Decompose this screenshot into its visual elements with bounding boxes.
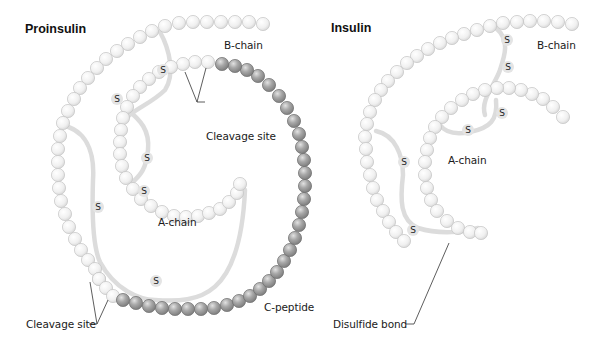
proinsulin-c-peptide-bead	[295, 140, 308, 153]
proinsulin-c-peptide-bead	[283, 243, 296, 256]
svg-text:S: S	[95, 202, 101, 212]
insulin-a-chain-bead	[514, 83, 527, 96]
proinsulin-a-chain-bead	[176, 57, 189, 70]
proinsulin-c-peptide-bead	[142, 299, 155, 312]
proinsulin-c-peptide-bead	[292, 218, 305, 231]
insulin-b-chain-bead	[433, 36, 446, 49]
insulin-a-chain-bead	[420, 143, 433, 156]
proinsulin-b-chain-bead	[172, 16, 185, 29]
proinsulin-c-peptide-label: C-peptide	[264, 301, 314, 313]
insulin-a-chain-bead	[455, 93, 468, 106]
cleavage-site-top-leader	[185, 68, 206, 102]
insulin-a-chain-bead	[420, 181, 433, 194]
proinsulin-a-chain-label: A-chain	[158, 216, 196, 228]
insulin-b-chain-bead	[565, 17, 578, 30]
insulin-processing-diagram: SSSSSSSSSSSS	[0, 0, 603, 351]
proinsulin-c-peptide-bead	[288, 231, 301, 244]
proinsulin-b-chain-bead	[242, 15, 255, 28]
proinsulin-c-peptide-bead	[228, 59, 241, 72]
proinsulin-c-peptide-bead	[116, 293, 129, 306]
insulin-a-chain-bead	[502, 81, 515, 94]
insulin-b-chain-bead	[363, 168, 376, 181]
proinsulin-c-peptide-bead	[207, 301, 220, 314]
insulin-a-chain-bead	[490, 81, 503, 94]
insulin-b-chain-bead	[360, 117, 373, 130]
proinsulin-b-chain-bead	[133, 30, 146, 43]
proinsulin-b-chain-bead	[145, 24, 158, 37]
svg-text:S: S	[153, 276, 159, 286]
proinsulin-c-peptide-bead	[272, 89, 285, 102]
svg-text:S: S	[504, 35, 510, 45]
insulin-sulfur-atom: S	[462, 124, 474, 136]
insulin-b-chain-bead	[537, 14, 550, 27]
insulin-a-chain-bead	[418, 168, 431, 181]
proinsulin-c-peptide-bead	[297, 153, 310, 166]
proinsulin-c-peptide-bead	[287, 114, 300, 127]
insulin-a-chain-bead	[451, 221, 464, 234]
proinsulin-b-chain-bead	[51, 155, 64, 168]
svg-text:S: S	[160, 65, 166, 75]
proinsulin-b-chain-bead	[110, 44, 123, 57]
proinsulin-c-peptide-bead	[292, 127, 305, 140]
insulin-a-chain-bead	[423, 131, 436, 144]
proinsulin-c-peptide-bead	[155, 301, 168, 314]
proinsulin-b-chain-bead	[158, 19, 171, 32]
proinsulin-c-peptide-bead	[181, 302, 194, 315]
proinsulin-cleavage-bead	[201, 55, 214, 68]
insulin-b-chain-bead	[523, 14, 536, 27]
proinsulin-b-chain-bead	[62, 220, 75, 233]
proinsulin-b-chain-bead	[51, 168, 64, 181]
svg-text:S: S	[401, 157, 407, 167]
insulin-b-chain-bead	[397, 234, 410, 247]
proinsulin-c-peptide-bead	[298, 166, 311, 179]
insulin-sulfur-atom: S	[398, 156, 410, 168]
proinsulin-sulfur-atom: S	[157, 64, 169, 76]
proinsulin-b-chain-bead	[52, 181, 65, 194]
svg-text:S: S	[114, 94, 120, 104]
proinsulin-a-chain-bead	[233, 177, 246, 190]
proinsulin-b-chain-bead	[67, 92, 80, 105]
svg-text:S: S	[505, 62, 511, 72]
proinsulin-sulfur-atom: S	[111, 93, 123, 105]
insulin-a-chain-bead	[430, 204, 443, 217]
proinsulin-b-chain-bead	[214, 15, 227, 28]
insulin-b-chain-bead	[510, 15, 523, 28]
proinsulin-c-peptide-bead	[297, 192, 310, 205]
proinsulin-c-peptide-bead	[280, 101, 293, 114]
proinsulin-cleavage-site-bottom-label: Cleavage site	[26, 318, 96, 330]
proinsulin-sulfur-atom: S	[138, 185, 150, 197]
proinsulin-b-chain-bead	[186, 15, 199, 28]
proinsulin-b-chain-bead	[53, 129, 66, 142]
svg-text:S: S	[141, 186, 147, 196]
proinsulin-b-chain-bead	[54, 194, 67, 207]
insulin-a-chain-bead	[556, 110, 569, 123]
svg-text:S: S	[465, 125, 471, 135]
insulin-disulfide-bond-label: Disulfide bond	[333, 318, 407, 330]
proinsulin-c-peptide-bead	[168, 302, 181, 315]
proinsulin-sulfur-atom: S	[141, 152, 153, 164]
proinsulin-b-chain-bead	[256, 17, 269, 30]
proinsulin-b-chain-bead	[51, 142, 64, 155]
insulin-a-chain-label: A-chain	[448, 154, 486, 166]
proinsulin-b-chain-bead	[200, 15, 213, 28]
insulin-b-chain-bead	[358, 130, 371, 143]
insulin-b-chain-bead	[551, 15, 564, 28]
proinsulin-cleavage-bead	[188, 55, 201, 68]
proinsulin-c-peptide-bead	[298, 179, 311, 192]
proinsulin-b-chain-bead	[58, 207, 71, 220]
svg-text:S: S	[144, 153, 150, 163]
proinsulin-b-chain-bead	[61, 104, 74, 117]
insulin-b-chain-bead	[483, 19, 496, 32]
proinsulin-title: Proinsulin	[25, 22, 86, 36]
proinsulin-b-chain-bead	[56, 116, 69, 129]
proinsulin-a-chain-bead	[116, 111, 129, 124]
insulin-title: Insulin	[331, 21, 371, 35]
disulfide-bond-leader	[406, 243, 449, 324]
svg-text:S: S	[410, 225, 416, 235]
insulin-sulfur-atom: S	[496, 107, 508, 119]
proinsulin-c-peptide-bead	[262, 78, 275, 91]
insulin-b-chain-label: B-chain	[537, 39, 576, 51]
proinsulin-b-chain-bead	[228, 15, 241, 28]
proinsulin-a-chain-bead	[115, 159, 128, 172]
diagram-canvas: SSSSSSSSSSSS Proinsulin Insulin B-chain …	[0, 0, 603, 351]
